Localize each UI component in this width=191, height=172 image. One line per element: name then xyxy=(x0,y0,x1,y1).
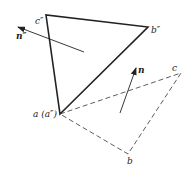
dashed-triangle-abc xyxy=(60,73,181,154)
label-a: a (a″) xyxy=(33,109,57,119)
label-n-double-prime: n″ xyxy=(16,31,27,41)
label-b-double-prime: b″ xyxy=(151,25,161,35)
label-b: b xyxy=(127,156,133,166)
label-c: c xyxy=(172,63,177,73)
solid-triangle-abc-double-prime xyxy=(46,15,148,114)
label-n: n xyxy=(138,65,145,75)
normal-vector-n-arrow xyxy=(120,68,136,113)
label-c-double-prime: c″ xyxy=(35,16,44,26)
projection-diagram: c″ b″ a (a″) c b n″ n xyxy=(0,0,191,172)
